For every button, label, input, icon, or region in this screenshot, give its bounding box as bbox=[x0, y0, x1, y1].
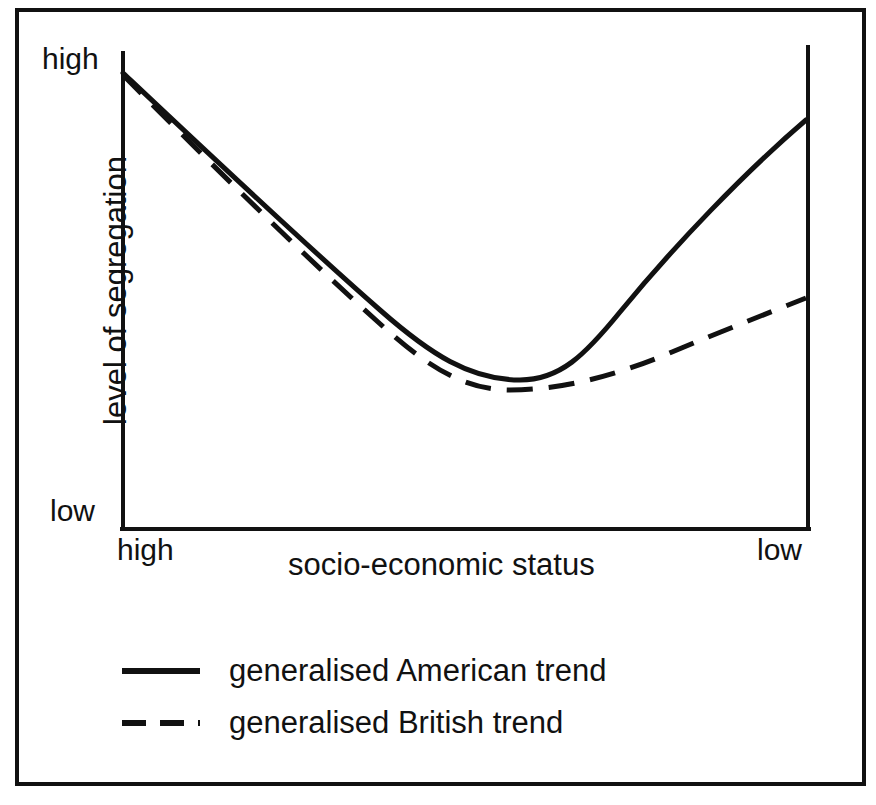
y-axis-tick-low: low bbox=[50, 496, 95, 526]
legend-label-british: generalised British trend bbox=[229, 705, 563, 741]
legend-label-american: generalised American trend bbox=[229, 653, 606, 689]
chart-legend: generalised American trend generalised B… bbox=[120, 645, 760, 749]
y-axis-title: level of segregation bbox=[100, 146, 131, 436]
series-line-british bbox=[123, 75, 806, 390]
x-axis-tick-high: high bbox=[117, 535, 174, 565]
legend-item-american: generalised American trend bbox=[120, 645, 760, 697]
x-axis-tick-low: low bbox=[757, 535, 802, 565]
y-axis-tick-high: high bbox=[42, 44, 99, 74]
legend-item-british: generalised British trend bbox=[120, 697, 760, 749]
legend-solid-line-icon bbox=[120, 660, 202, 682]
legend-dashed-line-icon bbox=[120, 712, 202, 734]
series-line-american bbox=[123, 73, 806, 380]
figure-container: high low high low socio-economic status … bbox=[0, 0, 876, 805]
x-axis-title: socio-economic status bbox=[288, 549, 595, 580]
